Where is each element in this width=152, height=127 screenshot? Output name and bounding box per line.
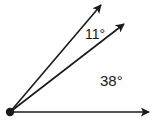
angle-label-11: 11°	[85, 26, 105, 42]
angle-label-38: 38°	[100, 72, 123, 89]
upper-ray	[10, 5, 101, 112]
middle-ray	[10, 24, 124, 112]
vertex-point	[6, 108, 14, 116]
angle-diagram: 11° 38°	[0, 0, 152, 127]
